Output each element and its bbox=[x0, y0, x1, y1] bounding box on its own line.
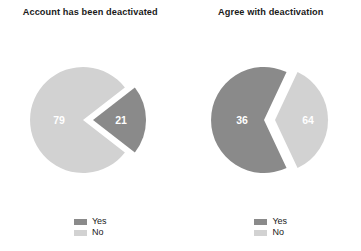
pie-svg-right: 36 64 bbox=[196, 52, 346, 187]
pie-chart-figure: Account has been deactivated 79 21 Yes N bbox=[0, 0, 361, 251]
legend-item-yes[interactable]: Yes bbox=[254, 217, 287, 226]
pie-chart-left: 79 21 bbox=[0, 52, 181, 187]
legend-item-yes[interactable]: Yes bbox=[74, 217, 107, 226]
legend-item-no[interactable]: No bbox=[254, 228, 287, 237]
legend-label-yes: Yes bbox=[92, 217, 107, 226]
chart-panel-agree-deactivation: Agree with deactivation 36 64 Yes No bbox=[181, 0, 361, 251]
legend-item-no[interactable]: No bbox=[74, 228, 107, 237]
legend-label-no: No bbox=[272, 228, 284, 237]
legend-swatch-yes bbox=[254, 219, 267, 225]
legend-swatch-no bbox=[254, 230, 267, 236]
legend-left: Yes No bbox=[0, 217, 181, 237]
legend-label-yes: Yes bbox=[272, 217, 287, 226]
pie-chart-right: 36 64 bbox=[181, 52, 361, 187]
legend-swatch-no bbox=[74, 230, 87, 236]
legend-swatch-yes bbox=[74, 219, 87, 225]
pie-svg-left: 79 21 bbox=[15, 52, 165, 187]
chart-panel-account-deactivated: Account has been deactivated 79 21 Yes N bbox=[0, 0, 181, 251]
legend-label-no: No bbox=[92, 228, 104, 237]
pie-label-yes: 36 bbox=[236, 114, 248, 126]
pie-label-no: 79 bbox=[53, 114, 65, 126]
page-title-secondary: Agree with deactivation bbox=[181, 7, 361, 17]
legend-right: Yes No bbox=[181, 217, 361, 237]
page-title: Account has been deactivated bbox=[0, 7, 181, 17]
pie-label-yes: 21 bbox=[115, 114, 127, 126]
pie-label-no: 64 bbox=[302, 114, 314, 126]
